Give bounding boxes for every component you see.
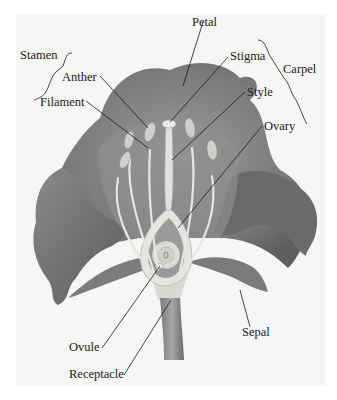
label-petal: Petal (192, 16, 217, 29)
label-filament: Filament (40, 96, 84, 109)
label-ovary: Ovary (264, 120, 295, 133)
sepal-right (188, 257, 268, 292)
label-sepal: Sepal (242, 326, 270, 339)
stigma (162, 120, 176, 128)
flower-diagram: Stamen Anther Filament Petal Stigma Carp… (0, 0, 337, 400)
label-stamen: Stamen (20, 49, 58, 62)
label-style: Style (247, 86, 273, 99)
label-receptacle: Receptacle (69, 368, 124, 381)
label-anther: Anther (62, 71, 97, 84)
style (165, 125, 173, 210)
label-carpel: Carpel (283, 63, 316, 76)
label-ovule: Ovule (69, 341, 100, 354)
stem (160, 298, 184, 360)
label-stigma: Stigma (230, 50, 265, 63)
